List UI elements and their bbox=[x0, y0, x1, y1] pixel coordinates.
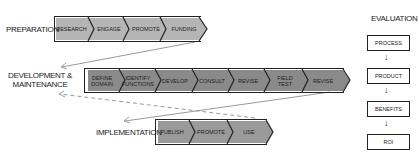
arrow-down-icon: ↓ bbox=[384, 53, 389, 62]
preparation-bar: Research Engage Promote Funding bbox=[54, 16, 201, 42]
phase-label-preparation: Preparation bbox=[6, 25, 59, 34]
eval-benefits: Benefits bbox=[367, 101, 410, 117]
eval-product: Product bbox=[367, 68, 410, 84]
step-promote-impl: Promote bbox=[194, 120, 228, 144]
step-funding: Funding bbox=[167, 17, 201, 41]
step-promote: Promote bbox=[129, 17, 163, 41]
step-field-test: Field Test bbox=[270, 69, 300, 92]
arrow-down-icon: ↓ bbox=[384, 86, 389, 95]
development-bar: Define Domain Identify Functions Develop… bbox=[84, 68, 344, 93]
step-publish: Publish bbox=[156, 120, 188, 144]
phase-label-development: Development & Maintenance bbox=[8, 71, 72, 89]
step-use: Use bbox=[232, 120, 266, 144]
phase-label-implementation: Implementation bbox=[96, 128, 162, 137]
step-research: Research bbox=[55, 17, 88, 41]
step-revise-1: Revise bbox=[232, 69, 264, 92]
arrow-down-icon: ↓ bbox=[384, 119, 389, 128]
step-revise-2: Revise bbox=[307, 69, 339, 92]
step-define-domain: Define Domain bbox=[87, 69, 117, 92]
eval-roi: ROI bbox=[367, 134, 410, 150]
step-develop: Develop bbox=[159, 69, 191, 92]
step-engage: Engage bbox=[93, 17, 125, 41]
evaluation-title: Evaluation bbox=[371, 14, 418, 23]
step-consult: Consult bbox=[196, 69, 228, 92]
implementation-bar: Publish Promote Use bbox=[155, 119, 267, 145]
eval-process: Process bbox=[367, 35, 410, 51]
step-identify-functions: Identify Functions bbox=[121, 69, 155, 92]
